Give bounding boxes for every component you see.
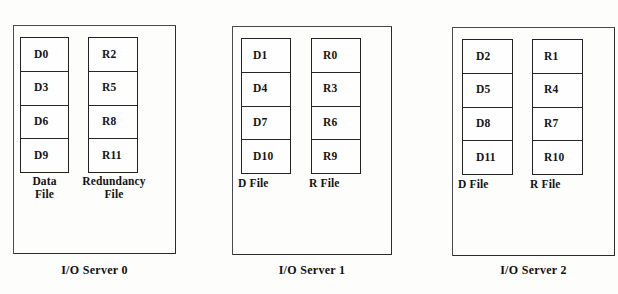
server-caption-0: I/O Server 0 — [13, 263, 176, 278]
block-label: R6 — [312, 117, 337, 129]
block-cell: D3 — [21, 72, 68, 106]
block-cell: R4 — [533, 74, 582, 108]
file-column-data-2: D2 D5 D8 D11 — [462, 39, 513, 175]
file-column-redundancy-1: R0 R3 R6 R9 — [311, 38, 361, 174]
block-label: R1 — [533, 51, 558, 63]
block-label: R8 — [89, 116, 116, 128]
block-cell: D6 — [21, 106, 68, 140]
block-cell: R5 — [89, 72, 137, 106]
block-label: D0 — [21, 49, 48, 61]
block-cell: R1 — [533, 40, 582, 74]
block-label: D6 — [21, 116, 48, 128]
file-column-data-0: D0 D3 D6 D9 — [20, 37, 69, 173]
block-cell: D8 — [463, 108, 512, 142]
file-column-caption-redundancy-2: R File — [530, 178, 600, 191]
file-column-caption-data-2: D File — [458, 178, 528, 191]
block-cell: R6 — [312, 107, 360, 141]
block-label: R4 — [533, 84, 558, 96]
block-cell: D2 — [463, 40, 512, 74]
file-column-caption-redundancy-0: Redundancy File — [78, 175, 150, 200]
block-label: R5 — [89, 82, 116, 94]
server-caption-2: I/O Server 2 — [452, 263, 615, 278]
declustering-figure: D0 D3 D6 D9 Data File R2 R5 R8 R11 Redun… — [0, 0, 618, 294]
block-label: R9 — [312, 151, 337, 163]
file-column-caption-data-0: Data File — [13, 175, 76, 200]
block-cell: D9 — [21, 139, 68, 172]
block-cell: D1 — [242, 39, 290, 73]
block-cell: R3 — [312, 73, 360, 107]
block-label: D8 — [463, 118, 490, 130]
block-label: R7 — [533, 118, 558, 130]
block-cell: D11 — [463, 141, 512, 174]
block-cell: R8 — [89, 106, 137, 140]
block-cell: R10 — [533, 141, 582, 174]
block-label: D1 — [242, 50, 267, 62]
block-label: D2 — [463, 51, 490, 63]
block-label: D3 — [21, 82, 48, 94]
block-label: D9 — [21, 150, 48, 162]
block-label: R10 — [533, 152, 564, 164]
block-cell: R2 — [89, 38, 137, 72]
file-column-data-1: D1 D4 D7 D10 — [241, 38, 291, 174]
block-cell: D10 — [242, 140, 290, 173]
server-caption-1: I/O Server 1 — [232, 263, 392, 278]
block-cell: R7 — [533, 108, 582, 142]
block-label: R2 — [89, 49, 116, 61]
block-label: D10 — [242, 151, 273, 163]
block-cell: D4 — [242, 73, 290, 107]
block-label: D11 — [463, 152, 496, 164]
block-cell: R11 — [89, 139, 137, 172]
block-label: D5 — [463, 84, 490, 96]
block-cell: D0 — [21, 38, 68, 72]
block-cell: R0 — [312, 39, 360, 73]
file-column-redundancy-2: R1 R4 R7 R10 — [532, 39, 583, 175]
block-cell: D5 — [463, 74, 512, 108]
block-cell: R9 — [312, 140, 360, 173]
file-column-caption-data-1: D File — [238, 177, 308, 190]
block-cell: D7 — [242, 107, 290, 141]
block-label: R0 — [312, 50, 337, 62]
block-label: D4 — [242, 83, 267, 95]
file-column-redundancy-0: R2 R5 R8 R11 — [88, 37, 138, 173]
block-label: R3 — [312, 83, 337, 95]
block-label: R11 — [89, 150, 122, 162]
file-column-caption-redundancy-1: R File — [309, 177, 379, 190]
block-label: D7 — [242, 117, 267, 129]
